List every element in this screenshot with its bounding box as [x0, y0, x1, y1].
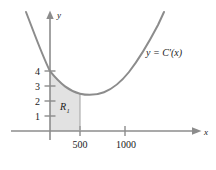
marginal-cost-figure: y x 1 2 3 4 500 1000 R1 y = C'(x)	[0, 0, 216, 170]
y-tick-label-1: 1	[35, 111, 40, 122]
curve-equation-label: y = C'(x)	[145, 47, 183, 59]
y-tick-label-4: 4	[35, 66, 40, 77]
x-tick-label-500: 500	[73, 139, 88, 150]
y-tick-label-2: 2	[35, 96, 40, 107]
y-tick-label-3: 3	[35, 81, 40, 92]
x-axis-label: x	[203, 127, 208, 137]
region-label-subscript: 1	[67, 107, 70, 114]
y-axis-arrowhead	[46, 11, 53, 20]
x-axis-arrowhead	[192, 127, 202, 135]
chart-canvas: y x 1 2 3 4 500 1000 R1 y = C'(x)	[0, 0, 216, 170]
x-tick-label-1000: 1000	[116, 139, 136, 150]
region-label-letter: R	[59, 101, 66, 112]
marginal-cost-curve	[26, 12, 164, 95]
y-axis-label: y	[56, 10, 61, 20]
